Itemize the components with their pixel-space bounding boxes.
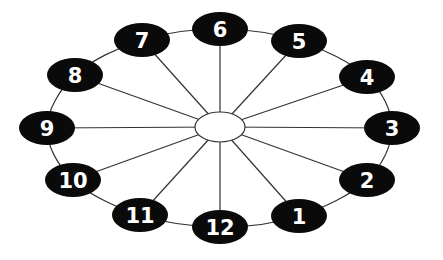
node-label: 1 [292, 205, 307, 229]
node-3: 3 [364, 111, 420, 145]
node-label: 9 [40, 117, 55, 141]
node-8: 8 [47, 58, 103, 92]
node-10: 10 [45, 163, 101, 197]
node-label: 12 [205, 216, 234, 240]
hub-and-spoke-diagram: 123456789101112 [0, 0, 443, 260]
node-label: 8 [68, 64, 83, 88]
node-9: 9 [19, 111, 75, 145]
node-7: 7 [114, 23, 170, 57]
node-label: 6 [213, 18, 228, 42]
node-2: 2 [339, 163, 395, 197]
node-6: 6 [192, 12, 248, 46]
node-label: 2 [360, 169, 375, 193]
node-label: 3 [385, 117, 400, 141]
node-4: 4 [339, 60, 395, 94]
center-hub [195, 112, 245, 142]
node-12: 12 [192, 210, 248, 244]
node-label: 10 [58, 169, 87, 193]
node-label: 5 [292, 30, 307, 54]
node-label: 7 [135, 29, 150, 53]
node-1: 1 [271, 199, 327, 233]
node-11: 11 [112, 198, 168, 232]
node-5: 5 [271, 24, 327, 58]
node-label: 11 [125, 204, 154, 228]
node-label: 4 [360, 66, 375, 90]
